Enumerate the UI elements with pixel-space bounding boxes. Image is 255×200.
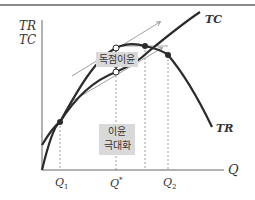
profit-maximization-diagram <box>0 0 255 200</box>
profit-max-line-1: 이윤 <box>99 125 135 139</box>
tr-tangent-point <box>113 45 119 51</box>
tc-curve-label: TC <box>205 13 222 26</box>
y-axis-label-tc: TC <box>19 33 36 47</box>
tr-max-point <box>142 43 148 49</box>
qstar-tick-label: Q* <box>110 176 123 190</box>
q2-tick-label: Q2 <box>163 176 177 191</box>
tr-curve-label: TR <box>216 122 233 135</box>
tc-tangent-point <box>113 69 119 75</box>
monopoly-profit-label: 독점이윤 <box>96 52 138 67</box>
x-axis-label-q: Q <box>228 162 239 177</box>
y-axis-label-tr: TR <box>19 19 36 33</box>
q2-intersection-point <box>165 52 171 58</box>
q1-tick-label: Q1 <box>55 176 69 191</box>
q1-intersection-point <box>57 119 63 125</box>
profit-maximization-label: 이윤 극대화 <box>99 124 135 155</box>
profit-max-line-2: 극대화 <box>99 139 135 153</box>
